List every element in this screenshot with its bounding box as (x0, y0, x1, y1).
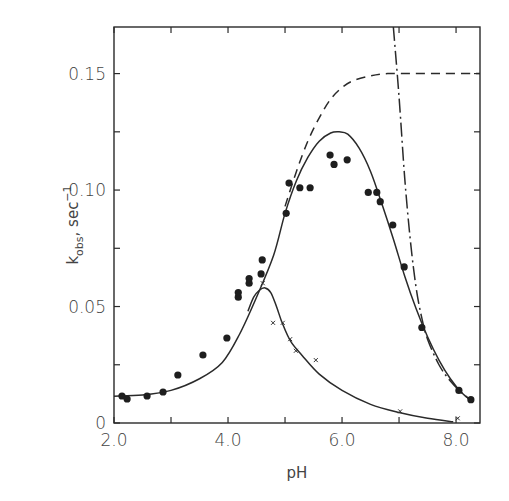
data-markers (118, 152, 474, 421)
data-point-x (271, 321, 275, 325)
ylabel-unit: , sec (64, 202, 82, 237)
dashed-curve (285, 73, 480, 206)
data-point-circle (389, 221, 396, 228)
data-point-circle (174, 371, 181, 378)
x-tick-label: 6.0 (329, 430, 356, 450)
solid-lower-curve (248, 288, 453, 422)
data-point-circle (307, 184, 314, 191)
x-tick-label: 8.0 (443, 430, 470, 450)
data-point-circle (373, 189, 380, 196)
y-axis-ticks: 00.050.100.15 (68, 64, 480, 433)
data-point-circle (283, 210, 290, 217)
plot-border (114, 27, 480, 423)
ylabel-sub: obs (73, 236, 86, 256)
data-point-circle (344, 156, 351, 163)
x-tick-label: 4.0 (214, 430, 241, 450)
ylabel-main: k (64, 256, 82, 265)
data-point-circle (326, 152, 333, 159)
data-point-circle (285, 179, 292, 186)
data-point-circle (246, 275, 253, 282)
data-point-circle (199, 351, 206, 358)
data-point-circle (159, 388, 166, 395)
data-point-circle (223, 334, 230, 341)
x-axis-ticks: 2.04.06.08.0 (100, 27, 469, 450)
data-point-x (314, 358, 318, 362)
y-tick-label: 0.05 (68, 297, 106, 317)
data-point-circle (330, 161, 337, 168)
data-point-circle (377, 198, 384, 205)
data-point-circle (467, 396, 474, 403)
y-tick-label: 0.15 (68, 64, 106, 84)
data-point-circle (143, 392, 150, 399)
x-tick-label: 2.0 (100, 430, 127, 450)
data-point-circle (418, 324, 425, 331)
data-point-circle (124, 395, 131, 402)
data-point-circle (259, 256, 266, 263)
data-point-circle (235, 289, 242, 296)
data-point-circle (257, 270, 264, 277)
data-point-circle (365, 189, 372, 196)
data-point-circle (401, 263, 408, 270)
dash-dot-curve (393, 27, 473, 402)
y-tick-label: 0 (95, 413, 106, 433)
solid-bell-curve (114, 132, 473, 402)
x-axis-title: pH (287, 464, 308, 482)
data-point-circle (455, 387, 462, 394)
chart: 2.04.06.08.0 00.050.100.15 pH kobs, sec−… (0, 0, 509, 501)
plot-frame (114, 27, 480, 423)
fitted-curves (114, 27, 480, 422)
ylabel-sup: −1 (61, 185, 74, 201)
data-point-circle (296, 184, 303, 191)
